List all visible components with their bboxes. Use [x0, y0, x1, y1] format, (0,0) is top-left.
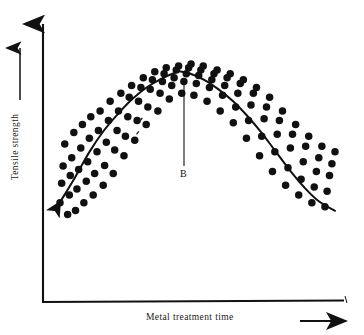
- scatter-point: [151, 68, 159, 76]
- scatter-point: [89, 191, 97, 199]
- scatter-point: [199, 62, 207, 70]
- scatter-point: [156, 90, 164, 98]
- scatter-point: [103, 138, 111, 146]
- scatter-point: [80, 199, 88, 207]
- scatter-point: [313, 168, 321, 176]
- scatter-point: [226, 70, 234, 78]
- scatter-point: [77, 144, 85, 152]
- scatter-point: [243, 135, 251, 143]
- scatter-point: [162, 64, 170, 72]
- scatter-point: [273, 131, 281, 139]
- scatter-point: [295, 191, 303, 199]
- scatter-point: [331, 148, 339, 156]
- scatter-point: [142, 121, 150, 129]
- scatter-point: [234, 90, 242, 98]
- scatter-point: [86, 135, 94, 143]
- scatter-point: [279, 107, 287, 115]
- scatter-point: [305, 132, 313, 140]
- scatter-point: [113, 127, 121, 135]
- scatter-point: [318, 142, 326, 150]
- scatter-point: [131, 136, 139, 144]
- scatter-point: [124, 113, 132, 121]
- scatter-point: [154, 107, 162, 115]
- scatter-point: [101, 162, 109, 170]
- scatter-plot-figure: Tensile strength Metal treatment time B: [0, 0, 364, 335]
- scatter-point: [230, 119, 238, 127]
- scatter-point: [99, 181, 107, 189]
- scatter-point: [175, 62, 183, 70]
- scatter-point: [106, 97, 114, 105]
- scatter-point: [122, 132, 130, 140]
- x-axis-line: [42, 301, 344, 303]
- scatter-point: [59, 162, 67, 170]
- y-axis-label: Tensile strength: [10, 97, 20, 197]
- scatter-point: [187, 60, 195, 68]
- scatter-point: [253, 84, 261, 92]
- scatter-point: [96, 107, 104, 115]
- scatter-point: [292, 121, 300, 129]
- scatter-point: [166, 95, 174, 103]
- x-axis-end-tick: [345, 296, 347, 303]
- scatter-point: [91, 170, 99, 178]
- scatter-point: [79, 121, 87, 129]
- scatter-point: [276, 117, 284, 125]
- scatter-point: [221, 82, 229, 90]
- scatter-point: [168, 82, 176, 90]
- scatter-point: [111, 146, 119, 154]
- trend-curve: [60, 71, 335, 210]
- scatter-point: [247, 101, 255, 109]
- scatter-point: [120, 152, 128, 160]
- scatter-point: [213, 66, 221, 74]
- scatter-point: [58, 180, 66, 188]
- scatter-point: [315, 154, 323, 162]
- scatter-point: [256, 152, 264, 160]
- scatter-point: [128, 82, 136, 90]
- scatter-point: [68, 154, 76, 162]
- scatter-point: [87, 113, 95, 121]
- scatter-point: [83, 177, 91, 185]
- scatter-point: [135, 97, 143, 105]
- scatter-point: [203, 97, 211, 105]
- scatter-point: [287, 144, 295, 152]
- scatter-point: [61, 140, 69, 148]
- scatter-point: [72, 207, 80, 215]
- scatter-point: [282, 181, 290, 189]
- scatter-point: [67, 172, 75, 180]
- scatter-point: [263, 103, 271, 111]
- scatter-point: [308, 199, 316, 207]
- scatter-point: [260, 115, 268, 123]
- scatter-point: [323, 187, 331, 195]
- scatter-point: [216, 107, 224, 115]
- scatter-point: [302, 142, 310, 150]
- scatter-point: [193, 80, 201, 88]
- scatter-point: [73, 185, 81, 193]
- scatter-point: [300, 158, 308, 166]
- scatter-point: [109, 170, 117, 178]
- scatter-point: [117, 90, 125, 98]
- scatter-point: [144, 103, 152, 111]
- scatter-point: [70, 129, 78, 137]
- scatter-point: [240, 76, 248, 84]
- scatter-point: [289, 131, 297, 139]
- scatter-point: [328, 160, 336, 168]
- x-axis-label: Metal treatment time: [146, 312, 234, 322]
- scatter-point: [310, 183, 318, 191]
- annotation-b-label: B: [180, 168, 187, 179]
- scatter-point: [140, 74, 148, 82]
- scatter-point: [269, 168, 277, 176]
- scatter-point: [326, 172, 334, 180]
- scatter-point: [64, 211, 72, 219]
- scatter-point: [190, 92, 198, 100]
- scatter-point: [266, 93, 274, 101]
- scatter-point: [93, 148, 101, 156]
